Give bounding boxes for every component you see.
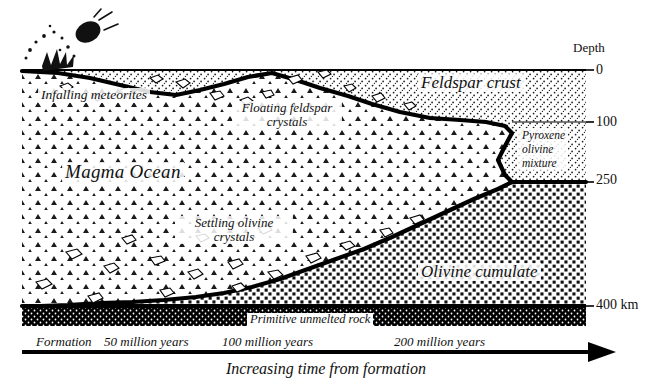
meteorite-icon [72,17,104,47]
meteorite-impact-graphic [25,9,119,71]
annotation-settling-olivine: Settling olivine crystals [175,216,293,244]
figure-canvas: Infalling meteorites Floating feldspar c… [0,0,652,383]
label-olivine-cumulate: Olivine cumulate [418,263,541,281]
label-pyroxene-olivine-mixture: Pyroxene olivine mixture [519,128,568,170]
depth-tick-250: 250 [596,172,617,187]
label-magma-ocean: Magma Ocean [62,162,184,183]
time-label-50my: 50 million years [104,335,189,349]
figure-caption: Increasing time from formation [0,360,652,377]
arrowhead-icon [588,342,616,362]
label-feldspar-crust: Feldspar crust [418,74,524,92]
annotation-infalling-meteorites: Infalling meteorites [38,88,150,103]
primitive-rock-top-edge [22,304,586,308]
time-label-formation: Formation [36,335,92,349]
depth-tick-400: 400 km [596,297,638,312]
depth-tick-0: 0 [596,62,603,77]
depth-tick-100: 100 [596,114,617,129]
annotation-floating-feldspar: Floating feldspar crystals [232,101,342,129]
time-label-200my: 200 million years [394,335,485,349]
label-primitive-unmelted-rock: Primitive unmelted rock [247,313,373,327]
depth-axis-ticks [586,70,594,306]
impact-splash [25,25,76,71]
depth-axis-title: Depth [573,41,605,55]
time-label-100my: 100 million years [222,335,313,349]
